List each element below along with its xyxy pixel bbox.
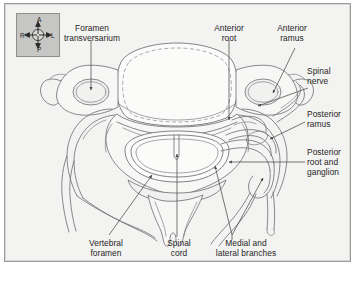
compass-label-right: R bbox=[20, 33, 25, 40]
figure-root: .ln { fill:none; stroke:#74747a; stroke-… bbox=[0, 0, 356, 285]
label-medial-and-lateral-branches: Medial and lateral branches bbox=[201, 238, 291, 258]
vertebral-body bbox=[117, 43, 238, 126]
compass-label-posterior: P bbox=[37, 47, 41, 54]
label-foramen-transversarium: Foramen transversarium bbox=[52, 23, 132, 43]
leader-lateral-branch bbox=[232, 178, 263, 235]
compass-label-anterior: A bbox=[37, 17, 41, 24]
leader-posterior-ramus bbox=[270, 122, 305, 139]
label-anterior-ramus: Anterior ramus bbox=[261, 23, 323, 43]
label-anterior-root: Anterior root bbox=[195, 23, 263, 43]
figure-panel: .ln { fill:none; stroke:#74747a; stroke-… bbox=[4, 3, 351, 262]
label-spinal-cord: Spinal cord bbox=[157, 238, 201, 258]
label-posterior-root-and-ganglion: Posterior root and ganglion bbox=[307, 147, 351, 178]
foramen-transversarium-right bbox=[245, 79, 281, 105]
right-arch-lines bbox=[239, 109, 287, 198]
label-spinal-nerve: Spinal nerve bbox=[307, 66, 351, 86]
figure-caption-clipped bbox=[4, 268, 351, 282]
label-posterior-ramus: Posterior ramus bbox=[307, 109, 351, 129]
label-vertebral-foramen: Vertebral foramen bbox=[69, 238, 143, 258]
